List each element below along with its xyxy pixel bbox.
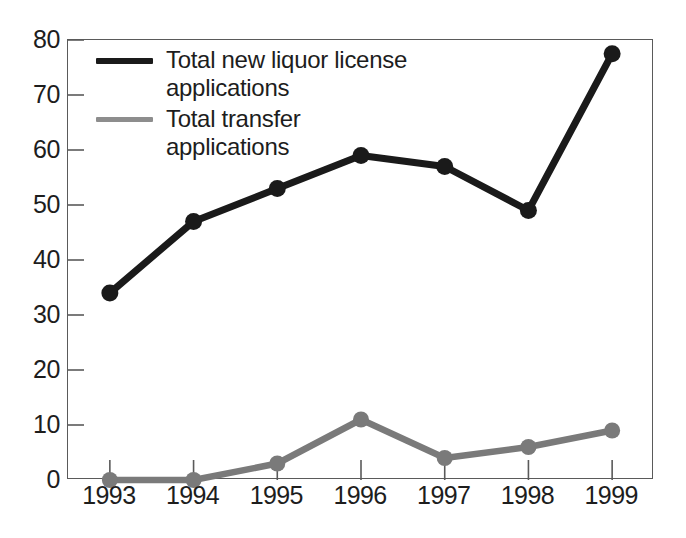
x-axis-labels: 1993199419951996199719981999 <box>67 483 653 523</box>
chart-figure: 01020304050607080 Total new liquor licen… <box>0 0 686 538</box>
y-tick-label: 40 <box>6 247 60 272</box>
x-tick-label: 1993 <box>82 483 135 508</box>
chart-legend: Total new liquor license applications To… <box>96 46 426 163</box>
y-tick-label: 20 <box>6 357 60 382</box>
y-tick-label: 60 <box>6 137 60 162</box>
data-point-marker <box>604 45 621 62</box>
y-tick-label: 80 <box>6 27 60 52</box>
x-tick-label: 1996 <box>333 483 386 508</box>
legend-item-transfer-applications: Total transfer applications <box>96 105 426 162</box>
data-point-marker <box>269 180 286 197</box>
data-point-marker <box>604 423 620 439</box>
y-axis-tick-marks <box>68 40 84 425</box>
y-tick-label: 50 <box>6 192 60 217</box>
data-point-marker <box>101 285 118 302</box>
x-tick-label: 1998 <box>501 483 554 508</box>
legend-item-new-liquor-license: Total new liquor license applications <box>96 46 426 103</box>
x-tick-label: 1997 <box>417 483 470 508</box>
legend-swatch-icon-transfer-applications <box>96 117 153 122</box>
legend-label-new-liquor-license: Total new liquor license applications <box>166 46 407 103</box>
x-tick-label: 1999 <box>585 483 638 508</box>
x-tick-label: 1995 <box>250 483 303 508</box>
data-point-marker <box>269 456 285 472</box>
data-point-marker <box>520 439 536 455</box>
y-axis-labels: 01020304050607080 <box>0 39 60 479</box>
data-point-marker <box>437 450 453 466</box>
data-point-marker <box>520 202 537 219</box>
plot-area: Total new liquor license applications To… <box>67 39 653 479</box>
data-point-marker <box>353 412 369 428</box>
y-tick-label: 70 <box>6 82 60 107</box>
y-tick-label: 10 <box>6 412 60 437</box>
legend-label-transfer-applications: Total transfer applications <box>166 105 426 162</box>
y-tick-label: 0 <box>6 467 60 492</box>
data-point-marker <box>436 158 453 175</box>
data-point-marker <box>185 213 202 230</box>
legend-swatch-icon-new-liquor-license <box>96 58 153 64</box>
x-tick-label: 1994 <box>166 483 219 508</box>
y-tick-label: 30 <box>6 302 60 327</box>
